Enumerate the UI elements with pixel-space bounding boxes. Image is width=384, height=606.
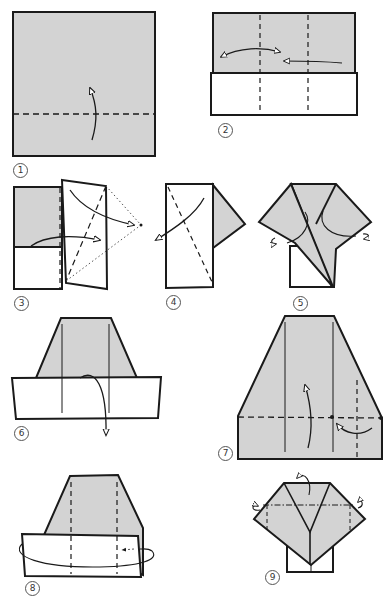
step-number-1: 1 <box>13 163 28 178</box>
step-number-9: 9 <box>265 570 280 585</box>
step-6 <box>12 318 161 435</box>
step-3 <box>14 180 143 289</box>
origami-diagram <box>0 0 384 606</box>
step-2 <box>211 13 357 115</box>
step-number-4: 4 <box>166 295 181 310</box>
step-9 <box>253 475 365 572</box>
step-7 <box>238 316 383 459</box>
step-5 <box>259 184 371 287</box>
step-number-3: 3 <box>14 296 29 311</box>
step-number-6: 6 <box>14 426 29 441</box>
step-4 <box>156 184 245 288</box>
step-number-5: 5 <box>293 296 308 311</box>
step-1 <box>13 12 155 156</box>
step-number-8: 8 <box>25 581 40 596</box>
step-number-2: 2 <box>218 123 233 138</box>
step-number-7: 7 <box>218 446 233 461</box>
step-8 <box>19 475 153 577</box>
